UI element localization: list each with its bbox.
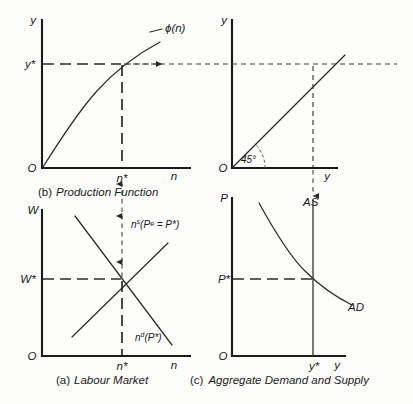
lm-x-axis-label: n <box>171 359 177 371</box>
angle-label: 45° <box>241 154 256 165</box>
caption-c-index: (c) <box>190 374 204 386</box>
fd-y-axis-label: y <box>220 14 228 26</box>
panel-forty-five-degree: 45° y O y <box>219 14 345 182</box>
angle-arc <box>255 144 265 168</box>
pf-origin-label: O <box>28 162 37 174</box>
production-function-curve <box>43 42 160 167</box>
lm-w-star-label: W* <box>20 273 36 285</box>
lm-y-axis-label: W <box>28 204 40 216</box>
labour-demand-curve <box>75 216 172 345</box>
figure-canvas: y y* O n* n ϕ(n) 45° y O y <box>0 0 413 404</box>
labour-demand-label: nd(P*) <box>135 331 162 343</box>
phi-leader-line <box>150 29 162 32</box>
ad-p-star-label: P* <box>218 273 231 285</box>
caption-a: (a)Labour Market <box>56 374 149 386</box>
economics-figure: y y* O n* n ϕ(n) 45° y O y <box>0 0 413 404</box>
pf-x-axis-label: n <box>171 170 177 182</box>
ad-x-axis-label: y <box>333 359 341 371</box>
production-function-label: ϕ(n) <box>165 22 186 34</box>
panel-aggregate-demand-supply: P P* O y* y AS AD <box>218 192 364 372</box>
lm-origin-label: O <box>28 350 37 362</box>
labour-supply-curve <box>72 243 168 337</box>
aggregate-supply-label: AS <box>302 196 319 208</box>
forty-five-degree-line <box>233 55 345 167</box>
panel-production-function: y y* O n* n ϕ(n) <box>24 14 190 184</box>
flow-arrows <box>122 64 397 277</box>
caption-c: (c)Aggregate Demand and Supply <box>190 374 370 386</box>
ad-y-axis-label: P <box>220 192 228 204</box>
pf-y-axis-label: y <box>29 14 37 26</box>
labour-supply-label: ns(Pᵉ = P*) <box>131 218 179 230</box>
fd-x-axis-label: y <box>323 170 331 182</box>
pf-n-star-label: n* <box>117 172 128 184</box>
ad-origin-label: O <box>219 350 228 362</box>
aggregate-demand-curve <box>259 203 352 305</box>
pf-y-star-label: y* <box>24 58 36 70</box>
caption-b-text: Production Function <box>56 186 158 198</box>
labour-supply-label-arg: (Pᵉ = P*) <box>140 219 179 230</box>
caption-b-index: (b) <box>38 186 52 198</box>
caption-b: (b)Production Function <box>38 186 158 198</box>
fd-origin-label: O <box>219 162 228 174</box>
caption-a-index: (a) <box>56 374 70 386</box>
panel-labour-market: W W* O n* n ns(Pᵉ = P*) nd(P*) <box>20 204 190 372</box>
lm-n-star-label: n* <box>117 360 128 372</box>
labour-demand-label-arg: (P*) <box>144 332 161 343</box>
ad-y-star-label: y* <box>308 360 320 372</box>
caption-a-text: Labour Market <box>74 374 149 386</box>
aggregate-demand-label: AD <box>347 301 364 313</box>
caption-c-text: Aggregate Demand and Supply <box>207 374 370 386</box>
